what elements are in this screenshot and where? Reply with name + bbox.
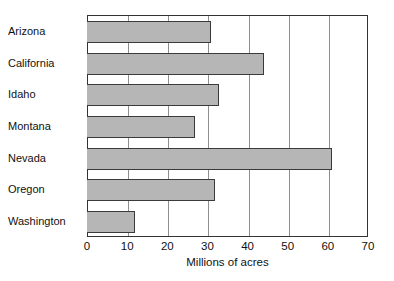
horizontal-bar-chart: ArizonaCaliforniaIdahoMontanaNevadaOrego… bbox=[0, 0, 394, 281]
x-tick-50: 50 bbox=[281, 239, 294, 253]
category-label-idaho: Idaho bbox=[0, 88, 78, 100]
bar-row bbox=[87, 179, 368, 201]
category-label-arizona: Arizona bbox=[0, 25, 78, 37]
category-axis-labels: ArizonaCaliforniaIdahoMontanaNevadaOrego… bbox=[0, 15, 84, 237]
category-label-montana: Montana bbox=[0, 120, 78, 132]
x-tick-30: 30 bbox=[201, 239, 214, 253]
bar-idaho bbox=[87, 84, 219, 106]
bar-row bbox=[87, 84, 368, 106]
x-axis-title: Millions of acres bbox=[87, 256, 368, 268]
x-tick-0: 0 bbox=[84, 239, 90, 253]
bars-layer bbox=[87, 15, 368, 237]
x-tick-60: 60 bbox=[321, 239, 334, 253]
category-label-nevada: Nevada bbox=[0, 152, 78, 164]
category-label-oregon: Oregon bbox=[0, 183, 78, 195]
x-axis-tick-labels: 010203040506070 bbox=[87, 239, 368, 255]
x-tick-40: 40 bbox=[241, 239, 254, 253]
bar-california bbox=[87, 53, 264, 75]
bar-row bbox=[87, 148, 368, 170]
x-tick-70: 70 bbox=[362, 239, 375, 253]
bar-row bbox=[87, 53, 368, 75]
x-tick-10: 10 bbox=[121, 239, 134, 253]
bar-oregon bbox=[87, 179, 215, 201]
bar-nevada bbox=[87, 148, 332, 170]
category-label-california: California bbox=[0, 57, 78, 69]
bar-washington bbox=[87, 211, 135, 233]
bar-row bbox=[87, 211, 368, 233]
x-tick-20: 20 bbox=[161, 239, 174, 253]
bar-row bbox=[87, 21, 368, 43]
bar-row bbox=[87, 116, 368, 138]
category-label-washington: Washington bbox=[0, 215, 78, 227]
bar-montana bbox=[87, 116, 195, 138]
bar-arizona bbox=[87, 21, 211, 43]
